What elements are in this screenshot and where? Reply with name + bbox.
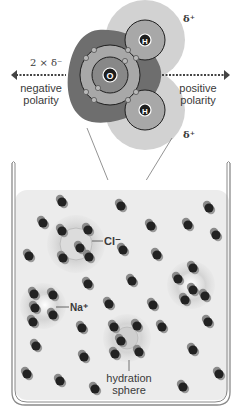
positive-label-line2: polarity [180, 94, 216, 106]
chloride-hydration-sphere [47, 215, 105, 273]
sodium-label: Na⁺ [70, 302, 88, 313]
negative-label-line1: negative [20, 82, 62, 94]
sodium-hydration-sphere-right [167, 261, 215, 309]
hydration-sphere-bottom [103, 314, 151, 362]
negative-polarity-arrow [11, 70, 66, 80]
hydration-label-line1: hydration [106, 372, 151, 384]
hydration-label-line2: sphere [112, 384, 146, 396]
arrow-right-icon [224, 70, 230, 80]
water-hydration-diagram: O H H δ⁺ δ⁺ 2 × δ⁻ negative polarity pos… [0, 0, 237, 412]
sodium-hydration-sphere-left [20, 283, 66, 329]
delta-plus-bottom-label: δ⁺ [183, 129, 195, 140]
oxygen-label: O [106, 71, 113, 81]
chloride-label: Cl⁻ [104, 235, 121, 247]
hydrogen-label-bottom: H [142, 107, 148, 116]
delta-plus-top-label: δ⁺ [183, 13, 195, 24]
positive-polarity-arrow [162, 70, 230, 80]
hydrogen-label-top: H [142, 37, 148, 46]
positive-label-line1: positive [179, 82, 216, 94]
negative-label-line2: polarity [23, 94, 59, 106]
delta-minus-label: 2 × δ⁻ [30, 57, 62, 68]
arrow-left-icon [11, 70, 17, 80]
